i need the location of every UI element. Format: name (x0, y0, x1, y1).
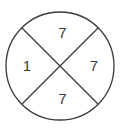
sector-label-top: 7 (0, 25, 125, 40)
sector-label-right: 7 (84, 58, 104, 73)
sector-label-left: 1 (17, 58, 37, 73)
sector-label-bottom: 7 (0, 91, 125, 106)
circle-sector-figure: 7 7 7 1 (0, 0, 125, 131)
